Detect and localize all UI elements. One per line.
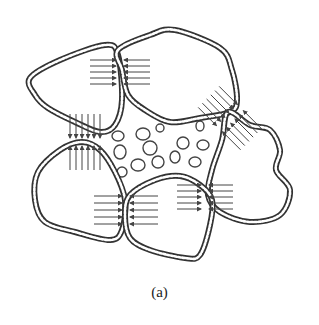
pore — [143, 141, 157, 155]
soil-particle-diagram — [0, 0, 319, 325]
compression-arrow-icon — [222, 132, 240, 150]
pore — [189, 157, 201, 167]
particle-bottom-left — [34, 142, 125, 240]
pore — [112, 131, 124, 141]
particle-group — [29, 29, 290, 259]
figure-caption: (a) — [0, 284, 319, 301]
pore — [152, 156, 164, 168]
pore — [114, 145, 126, 159]
pore — [136, 128, 150, 140]
particle-top-right — [116, 29, 237, 122]
pore — [156, 124, 164, 132]
compression-arrow-icon — [211, 95, 229, 113]
particle-right — [208, 112, 290, 222]
compression-arrow-icon — [215, 91, 233, 109]
pore-group — [112, 121, 209, 177]
particle-top-left — [29, 45, 122, 132]
pore — [196, 121, 204, 131]
pore — [177, 137, 189, 149]
compression-arrow-icon — [227, 127, 245, 145]
pore — [170, 151, 180, 163]
pore — [197, 140, 209, 150]
pore — [131, 159, 145, 171]
